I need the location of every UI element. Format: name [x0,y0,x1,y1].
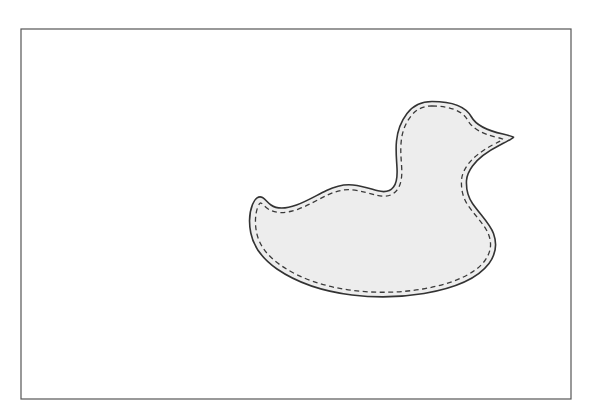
pattern-page [0,0,593,418]
page-frame-layer [0,0,593,418]
page-border [21,29,571,399]
